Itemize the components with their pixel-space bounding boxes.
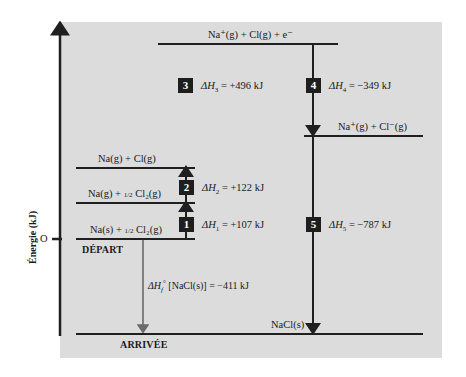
level-line-na-plus-cl-e <box>158 43 338 45</box>
level-line-na-solid-half-cl2 <box>76 238 195 240</box>
value: = +107 kJ <box>219 219 264 230</box>
label-suffix: Cl₂(g) <box>133 224 161 235</box>
axis-title: Énergie (kJ) <box>27 198 38 278</box>
level-line-na-cl-gas <box>76 167 195 169</box>
delta-h: ΔH <box>329 219 343 230</box>
level-line-na-gas-half-cl2 <box>76 202 195 204</box>
step-label-4: ΔH4 = −349 kJ <box>329 79 391 97</box>
value: [NaCl(s)] = −411 kJ <box>166 280 249 291</box>
level-label-na-solid-half-cl2: Na(s) + 1/2 Cl₂(g) <box>90 224 162 237</box>
label-prefix: Na(s) + <box>90 224 125 235</box>
axis-zero-label: O <box>40 233 48 245</box>
step-badge-3: 3 <box>178 78 193 93</box>
value: = −787 kJ <box>346 219 391 230</box>
step-badge-4: 4 <box>306 78 321 93</box>
delta-h: ΔH <box>202 182 216 193</box>
step-badge-5: 5 <box>306 217 321 232</box>
value: = +122 kJ <box>219 182 264 193</box>
step-badge-2: 2 <box>179 180 194 195</box>
subscript: f <box>161 286 163 294</box>
value: = −349 kJ <box>346 80 391 91</box>
step-label-3: ΔH3 = +496 kJ <box>201 79 263 97</box>
formation-label: ΔHf° [NaCl(s)] = −411 kJ <box>148 276 249 297</box>
delta-h: ΔH <box>201 80 215 91</box>
delta-h: ΔH <box>148 280 161 291</box>
level-label-na-gas-half-cl2: Na(g) + 1/2 Cl₂(g) <box>88 188 161 201</box>
start-marker: DÉPART <box>82 244 123 256</box>
label-prefix: Na(g) + <box>88 188 124 199</box>
level-label-nacl-solid: NaCl(s) <box>271 319 304 331</box>
end-marker: ARRIVÉE <box>120 339 168 351</box>
delta-h: ΔH <box>202 219 216 230</box>
value: = +496 kJ <box>218 80 263 91</box>
step-label-2: ΔH2 = +122 kJ <box>202 181 264 199</box>
level-line-nacl-solid <box>76 333 423 335</box>
level-label-na-plus-cl-minus: Na⁺(g) + Cl⁻(g) <box>338 121 407 133</box>
label-suffix: Cl₂(g) <box>133 188 161 199</box>
fraction: 1/2 <box>124 191 133 199</box>
level-line-na-plus-cl-minus <box>304 135 423 137</box>
step-label-1: ΔH1 = +107 kJ <box>202 218 264 236</box>
step-label-5: ΔH5 = −787 kJ <box>329 218 391 236</box>
level-label-na-plus-cl-e: Na⁺(g) + Cl(g) + e⁻ <box>208 29 293 41</box>
level-label-na-cl-gas: Na(g) + Cl(g) <box>98 153 156 165</box>
delta-h: ΔH <box>329 80 343 91</box>
step-badge-1: 1 <box>179 217 194 232</box>
